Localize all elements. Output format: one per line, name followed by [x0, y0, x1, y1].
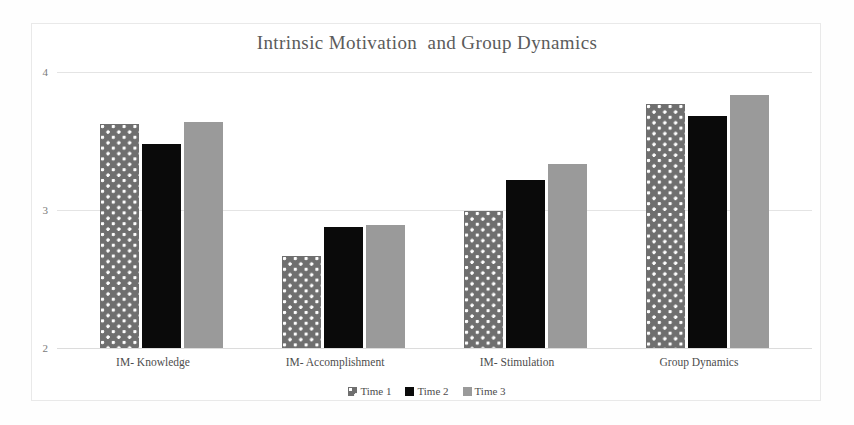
legend-swatch-icon-time2 [405, 387, 414, 396]
legend-label-time2: Time 2 [417, 385, 448, 397]
chart-legend: Time 1 Time 2 Time 3 [0, 385, 854, 397]
y-tick-4: 4 [43, 66, 49, 78]
bar-time2[interactable] [506, 180, 545, 348]
bar-time1[interactable] [100, 124, 139, 348]
gridline-2-baseline: 2 [57, 348, 812, 349]
bar-time3[interactable] [730, 95, 769, 348]
bar-group-im-stimulation [464, 72, 587, 348]
bar-group-group-dynamics [646, 72, 769, 348]
legend-swatch-icon-time1 [348, 387, 357, 396]
category-label-group-dynamics: Group Dynamics [586, 356, 812, 368]
bar-time2[interactable] [688, 116, 727, 348]
bar-time3[interactable] [184, 122, 223, 348]
legend-item-time3[interactable]: Time 3 [463, 385, 506, 397]
legend-item-time2[interactable]: Time 2 [405, 385, 448, 397]
bar-time1[interactable] [464, 211, 503, 348]
bar-time3[interactable] [366, 225, 405, 348]
bar-group-im-accomplishment [282, 72, 405, 348]
plot-area: 4 3 2 [57, 72, 812, 348]
bar-time2[interactable] [142, 144, 181, 348]
bars-layer [57, 72, 812, 348]
chart-figure: Intrinsic Motivation and Group Dynamics … [0, 0, 854, 425]
legend-label-time3: Time 3 [475, 385, 506, 397]
bar-group-im-knowledge [100, 72, 223, 348]
bar-time1[interactable] [646, 104, 685, 348]
bar-time3[interactable] [548, 164, 587, 348]
legend-swatch-icon-time3 [463, 387, 472, 396]
legend-label-time1: Time 1 [360, 385, 391, 397]
bar-time1[interactable] [282, 256, 321, 348]
chart-title: Intrinsic Motivation and Group Dynamics [0, 32, 854, 54]
y-tick-3: 3 [43, 204, 49, 216]
bar-time2[interactable] [324, 227, 363, 348]
y-tick-2: 2 [43, 342, 49, 354]
legend-item-time1[interactable]: Time 1 [348, 385, 391, 397]
